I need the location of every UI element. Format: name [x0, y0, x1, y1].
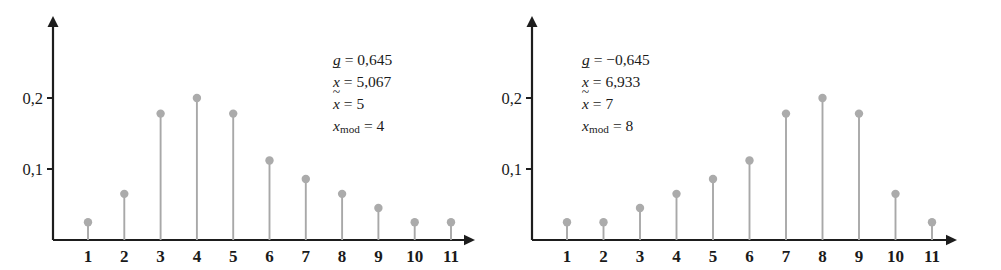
stem-marker [229, 109, 237, 117]
x-axis-tick-label: 7 [782, 247, 791, 266]
x-axis-tick-label: 3 [156, 247, 165, 266]
x-axis-tick-label: 9 [855, 247, 864, 266]
statistics-annotation-right: g = −0,645 ¯x = 6,933 ~x = 7 xmod = 8 [582, 48, 650, 136]
stat-line-mean: ¯x = 5,067 [333, 70, 392, 92]
chart-panel-left: 0,10,21234567891011 g = 0,645 ¯x = 5,067… [0, 0, 500, 270]
stem-marker [599, 218, 607, 226]
stem-marker [636, 204, 644, 212]
stat-line-mode: xmod = 4 [333, 114, 392, 136]
statistics-annotation-left: g = 0,645 ¯x = 5,067 ~x = 5 xmod = 4 [333, 48, 392, 136]
y-axis-tick-label: 0,1 [501, 160, 522, 179]
x-axis-tick-label: 8 [338, 247, 347, 266]
y-axis-arrowhead [527, 16, 538, 27]
stem-marker [193, 94, 201, 102]
stem-marker [855, 109, 863, 117]
x-axis-arrowhead [946, 235, 957, 245]
stem-marker [338, 190, 346, 198]
stem-marker [120, 190, 128, 198]
stem-marker [156, 109, 164, 117]
stat-line-median: ~x = 5 [333, 92, 392, 114]
stem-marker [265, 156, 273, 164]
stem-marker [891, 190, 899, 198]
y-axis-tick-label: 0,2 [22, 89, 43, 108]
chart-panel-right: 0,10,21234567891011 g = −0,645 ¯x = 6,93… [500, 0, 1000, 270]
x-axis-tick-label: 6 [265, 247, 274, 266]
stem-marker [672, 190, 680, 198]
x-axis-tick-label: 1 [563, 247, 572, 266]
x-axis-tick-label: 5 [709, 247, 718, 266]
stem-marker [374, 204, 382, 212]
stat-line-skewness: g = 0,645 [333, 48, 392, 70]
stem-marker [447, 218, 455, 226]
x-axis-tick-label: 4 [672, 247, 681, 266]
stem-marker [818, 94, 826, 102]
stem-marker [302, 175, 310, 183]
y-axis-tick-label: 0,2 [501, 89, 522, 108]
stem-marker [745, 156, 753, 164]
stat-line-mode: xmod = 8 [582, 114, 650, 136]
x-axis-tick-label: 6 [745, 247, 754, 266]
stem-marker [782, 109, 790, 117]
stem-chart-left: 0,10,21234567891011 [0, 0, 500, 270]
stat-line-median: ~x = 7 [582, 92, 650, 114]
y-axis-arrowhead [48, 16, 59, 27]
stem-plot-figure: 0,10,21234567891011 g = 0,645 ¯x = 5,067… [0, 0, 1001, 270]
stem-chart-right: 0,10,21234567891011 [500, 0, 1001, 270]
x-axis-arrowhead [464, 235, 475, 245]
stem-marker [563, 218, 571, 226]
x-axis-tick-label: 11 [443, 247, 459, 266]
x-axis-tick-label: 11 [924, 247, 940, 266]
x-axis-tick-label: 10 [887, 247, 904, 266]
x-axis-tick-label: 2 [599, 247, 608, 266]
x-axis-tick-label: 5 [229, 247, 238, 266]
stat-line-skewness: g = −0,645 [582, 48, 650, 70]
x-axis-tick-label: 2 [120, 247, 129, 266]
x-axis-tick-label: 7 [302, 247, 311, 266]
stem-marker [928, 218, 936, 226]
x-axis-tick-label: 8 [818, 247, 827, 266]
x-axis-tick-label: 9 [374, 247, 383, 266]
x-axis-tick-label: 4 [193, 247, 202, 266]
x-axis-tick-label: 3 [636, 247, 645, 266]
stem-marker [709, 175, 717, 183]
y-axis-tick-label: 0,1 [22, 160, 43, 179]
stem-marker [411, 218, 419, 226]
x-axis-tick-label: 10 [406, 247, 423, 266]
x-axis-tick-label: 1 [84, 247, 93, 266]
stat-line-mean: ¯x = 6,933 [582, 70, 650, 92]
stem-marker [84, 218, 92, 226]
